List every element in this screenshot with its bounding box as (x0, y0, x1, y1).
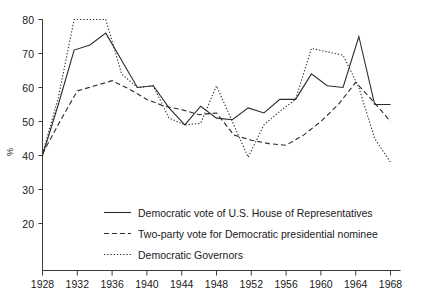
y-tick-label-50: 50 (22, 116, 34, 128)
x-axis-tick-labels: 1928 1932 1936 1940 1944 1948 1952 1956 … (31, 278, 403, 290)
y-tick-label-20: 20 (22, 218, 34, 230)
legend-label-governors: Democratic Governors (138, 249, 243, 261)
y-axis-ticks (39, 20, 43, 224)
legend: Democratic vote of U.S. House of Represe… (104, 207, 378, 261)
legend-label-house: Democratic vote of U.S. House of Represe… (138, 207, 373, 219)
y-axis-title: % (4, 147, 15, 156)
legend-label-presidential: Two-party vote for Democratic presidenti… (138, 228, 378, 240)
series-line-house (43, 33, 391, 155)
x-tick-label-1936: 1936 (100, 278, 124, 290)
x-tick-label-1956: 1956 (274, 278, 298, 290)
x-tick-label-1964: 1964 (344, 278, 368, 290)
x-tick-label-1932: 1932 (66, 278, 90, 290)
y-tick-label-80: 80 (22, 14, 34, 26)
x-tick-label-1968: 1968 (379, 278, 403, 290)
x-tick-label-1944: 1944 (170, 278, 194, 290)
data-series-group (43, 20, 391, 163)
x-tick-label-1952: 1952 (240, 278, 264, 290)
y-tick-label-30: 30 (22, 184, 34, 196)
y-axis-tick-labels: 80 70 60 50 40 30 20 (22, 14, 34, 230)
x-axis-ticks (43, 271, 391, 276)
y-tick-label-70: 70 (22, 48, 34, 60)
x-tick-label-1948: 1948 (205, 278, 229, 290)
x-tick-label-1940: 1940 (135, 278, 159, 290)
y-tick-label-40: 40 (22, 150, 34, 162)
chart-container: 80 70 60 50 40 30 20 % 1928 1932 (0, 0, 422, 304)
y-tick-label-60: 60 (22, 82, 34, 94)
series-line-presidential (43, 81, 391, 154)
x-tick-label-1960: 1960 (309, 278, 333, 290)
x-tick-label-1928: 1928 (31, 278, 55, 290)
line-chart: 80 70 60 50 40 30 20 % 1928 1932 (0, 0, 422, 304)
